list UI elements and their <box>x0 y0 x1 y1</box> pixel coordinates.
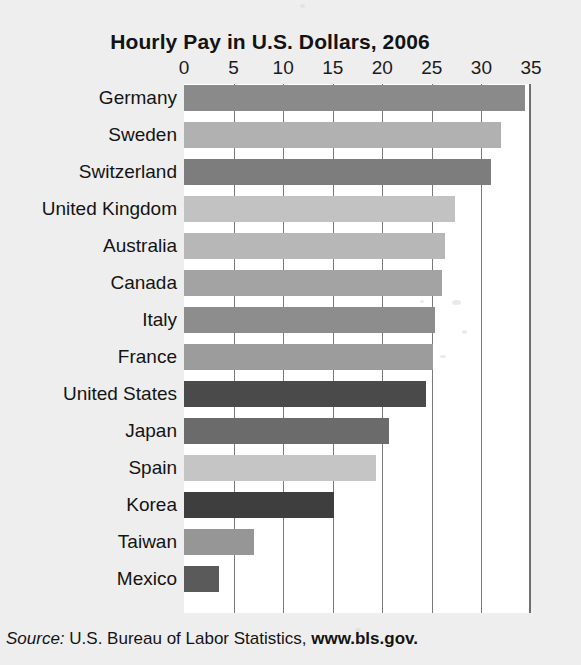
bar-france <box>184 344 433 370</box>
bar-australia <box>184 233 445 259</box>
bar-row: Taiwan <box>0 528 581 565</box>
bar-canada <box>184 270 442 296</box>
source-url: www.bls.gov. <box>311 629 418 648</box>
bar-row: Italy <box>0 306 581 343</box>
bar-italy <box>184 307 435 333</box>
bar-germany <box>184 85 525 111</box>
category-label-france: France <box>118 345 177 369</box>
bar-row: Sweden <box>0 121 581 158</box>
x-tick-label-0: 0 <box>179 57 190 79</box>
paper-speckle <box>300 4 305 8</box>
bar-row: United Kingdom <box>0 195 581 232</box>
bar-united-states <box>184 381 426 407</box>
bar-chart-figure: Hourly Pay in U.S. Dollars, 2006 0510152… <box>0 0 581 665</box>
bar-korea <box>184 492 334 518</box>
bar-row: Switzerland <box>0 158 581 195</box>
bar-row: United States <box>0 380 581 417</box>
category-label-australia: Australia <box>103 234 177 258</box>
source-note: Source: U.S. Bureau of Labor Statistics,… <box>6 629 418 649</box>
x-tick-label-10: 10 <box>273 57 294 79</box>
bar-mexico <box>184 566 219 592</box>
chart-title: Hourly Pay in U.S. Dollars, 2006 <box>0 30 540 54</box>
x-tick-label-15: 15 <box>322 57 343 79</box>
category-label-korea: Korea <box>126 493 177 517</box>
category-label-sweden: Sweden <box>108 123 177 147</box>
source-label: Source: <box>6 629 65 648</box>
bar-row: France <box>0 343 581 380</box>
bar-united-kingdom <box>184 196 455 222</box>
x-tick-label-35: 35 <box>520 57 541 79</box>
bar-row: Spain <box>0 454 581 491</box>
x-tick-label-20: 20 <box>372 57 393 79</box>
bar-row: Canada <box>0 269 581 306</box>
bar-taiwan <box>184 529 254 555</box>
category-label-spain: Spain <box>128 456 177 480</box>
x-axis-tick-labels: 05101520253035 <box>0 57 581 81</box>
bar-row: Japan <box>0 417 581 454</box>
bar-japan <box>184 418 389 444</box>
bar-row: Korea <box>0 491 581 528</box>
category-label-japan: Japan <box>125 419 177 443</box>
category-label-switzerland: Switzerland <box>79 160 177 184</box>
category-label-united-states: United States <box>63 382 177 406</box>
x-tick-label-5: 5 <box>228 57 239 79</box>
category-label-germany: Germany <box>99 86 177 110</box>
bar-spain <box>184 455 376 481</box>
category-label-mexico: Mexico <box>117 567 177 591</box>
category-label-united-kingdom: United Kingdom <box>42 197 177 221</box>
category-label-canada: Canada <box>110 271 177 295</box>
bar-row: Germany <box>0 84 581 121</box>
x-tick-label-25: 25 <box>421 57 442 79</box>
bar-row: Australia <box>0 232 581 269</box>
category-label-taiwan: Taiwan <box>118 530 177 554</box>
bar-rows: GermanySwedenSwitzerlandUnited KingdomAu… <box>0 84 581 613</box>
source-text: U.S. Bureau of Labor Statistics, <box>65 629 312 648</box>
bar-sweden <box>184 122 501 148</box>
bar-switzerland <box>184 159 491 185</box>
x-tick-label-30: 30 <box>471 57 492 79</box>
category-label-italy: Italy <box>142 308 177 332</box>
bar-row: Mexico <box>0 565 581 602</box>
